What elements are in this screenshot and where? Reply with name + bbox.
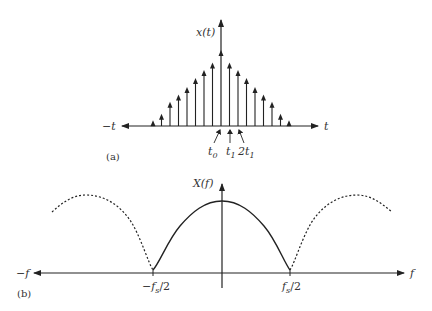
stem-arrowhead bbox=[236, 70, 241, 76]
t0-label: t0 bbox=[208, 145, 218, 160]
stem-arrowhead bbox=[227, 63, 232, 69]
t1-label: t1 bbox=[226, 145, 236, 160]
2t1-pointer bbox=[239, 130, 244, 143]
right-replica-curve bbox=[290, 195, 392, 270]
Xf-label: X(f) bbox=[192, 177, 214, 190]
stem-arrowhead bbox=[151, 120, 156, 126]
stem-arrowhead bbox=[159, 114, 164, 120]
panel-a: x(t) −t t t0 t1 2t1 (a) bbox=[102, 20, 329, 162]
left-replica-curve bbox=[52, 195, 153, 270]
fs-half-label: fs/2 bbox=[281, 280, 301, 295]
stem-arrowhead bbox=[176, 94, 181, 100]
xt-label: x(t) bbox=[196, 26, 215, 39]
t0-pointer bbox=[214, 130, 220, 143]
t-label: t bbox=[324, 120, 329, 133]
panel-b: X(f) −f f −fs/2 fs/2 (b) bbox=[16, 177, 416, 299]
neg-fs-half-label: −fs/2 bbox=[142, 280, 170, 295]
stem-arrowhead bbox=[202, 70, 207, 76]
2t1-label: 2t1 bbox=[237, 145, 255, 160]
figure: x(t) −t t t0 t1 2t1 (a) X(f) −f f −fs/2 … bbox=[0, 0, 432, 311]
panel-a-label: (a) bbox=[106, 151, 120, 162]
stem-arrowhead bbox=[168, 102, 173, 108]
stem-arrowhead bbox=[244, 78, 249, 84]
stem-arrowhead bbox=[278, 114, 283, 120]
stem-arrowhead bbox=[193, 78, 198, 84]
neg-f-label: −f bbox=[16, 267, 31, 280]
stem-arrowhead bbox=[253, 87, 258, 93]
stem-arrowhead bbox=[210, 63, 215, 69]
stem-arrowhead bbox=[185, 87, 190, 93]
stem-arrowhead bbox=[270, 102, 275, 108]
neg-t-label: −t bbox=[102, 120, 116, 133]
f-label: f bbox=[409, 267, 416, 280]
panel-b-label: (b) bbox=[17, 288, 31, 299]
stem-arrowhead bbox=[261, 94, 266, 100]
stem-arrowhead bbox=[287, 120, 292, 126]
stem-arrowhead bbox=[219, 50, 224, 56]
